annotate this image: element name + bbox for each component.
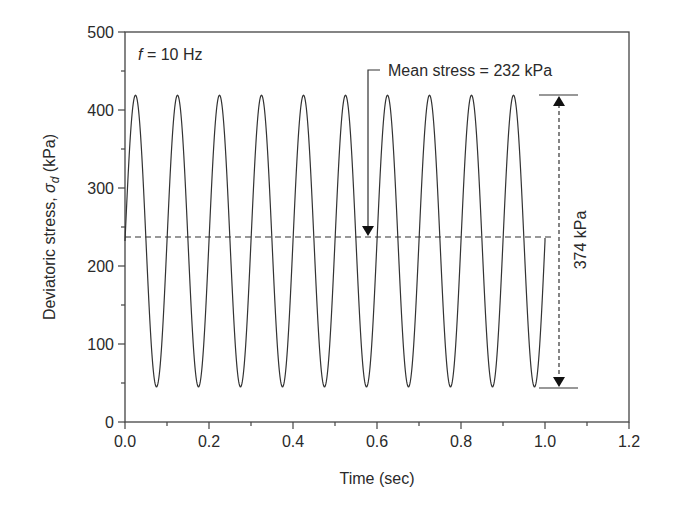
y-tick-label: 100 xyxy=(87,336,114,353)
x-tick-label: 0.4 xyxy=(282,433,304,450)
x-tick-label: 0.6 xyxy=(366,433,388,450)
arrow-down-icon xyxy=(553,377,565,387)
y-tick-label: 300 xyxy=(87,180,114,197)
y-axis: 0100200300400500 xyxy=(87,24,125,431)
frequency-annotation: f = 10 Hz xyxy=(138,46,202,63)
x-tick-label: 1.2 xyxy=(618,433,640,450)
x-tick-label: 0.0 xyxy=(114,433,136,450)
arrow-up-icon xyxy=(553,96,565,106)
x-tick-label: 0.8 xyxy=(450,433,472,450)
stress-curve xyxy=(125,95,545,387)
y-axis-title: Deviatoric stress, σd (kPa) xyxy=(41,134,62,320)
chart: 0100200300400500 0.00.20.40.60.81.01.2 f… xyxy=(0,0,674,511)
y-tick-label: 400 xyxy=(87,102,114,119)
x-axis-title: Time (sec) xyxy=(340,470,415,487)
x-tick-label: 1.0 xyxy=(534,433,556,450)
y-tick-label: 500 xyxy=(87,24,114,41)
x-axis: 0.00.20.40.60.81.01.2 xyxy=(114,422,640,450)
y-tick-label: 0 xyxy=(105,414,114,431)
y-tick-label: 200 xyxy=(87,258,114,275)
x-tick-label: 0.2 xyxy=(198,433,220,450)
arrow-down-icon xyxy=(362,226,374,236)
plot-frame xyxy=(125,32,629,422)
mean-stress-label: Mean stress = 232 kPa xyxy=(388,62,552,79)
amplitude-label: 374 kPa xyxy=(572,211,589,270)
